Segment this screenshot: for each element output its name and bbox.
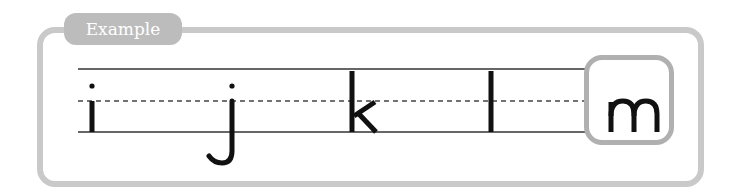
letter-m <box>611 101 657 132</box>
highlighted-letter <box>0 0 734 196</box>
